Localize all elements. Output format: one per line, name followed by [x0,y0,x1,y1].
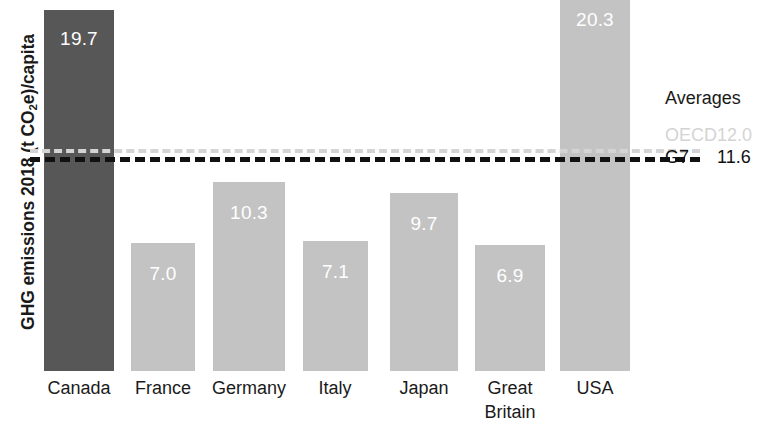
legend-title: Averages [655,88,769,109]
x-label-germany: Germany [195,376,303,400]
plot-area: 19.7 7.0 10.3 7.1 9.7 6.9 20.3 [0,0,769,371]
x-label-great-britain-line1: Great [487,378,532,398]
x-label-usa: USA [554,376,636,400]
x-label-japan: Japan [380,376,468,400]
x-label-italy: Italy [293,376,377,400]
bar-value-germany: 10.3 [213,202,285,224]
legend-label-oecd: OECD [665,125,717,146]
legend-label-g7: G7 [665,147,689,168]
x-axis-labels: Canada France Germany Italy Japan Great … [0,376,769,430]
bar-france[interactable]: 7.0 [131,243,195,371]
bar-usa[interactable]: 20.3 [560,0,630,371]
bar-italy[interactable]: 7.1 [303,241,368,371]
legend-value-oecd: 12.0 [717,125,752,146]
x-label-great-britain-line2: Britain [484,402,535,422]
legend-value-g7: 11.6 [717,147,751,168]
x-label-canada: Canada [29,376,129,400]
bar-value-france: 7.0 [131,263,195,285]
bar-value-usa: 20.3 [560,9,630,31]
ghg-emissions-bar-chart: GHG emissions 2018 (t CO2e)/capita 19.7 … [0,0,769,430]
legend: Averages OECD 12.0 G7 11.6 [655,88,769,169]
bar-germany[interactable]: 10.3 [213,182,285,371]
bar-value-italy: 7.1 [303,261,368,283]
bar-value-japan: 9.7 [390,213,458,235]
legend-row-g7: G7 11.6 [655,147,769,169]
bar-japan[interactable]: 9.7 [390,193,458,371]
reference-line-oecd [30,149,700,153]
x-label-great-britain: Great Britain [466,376,554,424]
bar-value-great-britain: 6.9 [475,265,545,287]
reference-line-g7 [30,157,700,162]
bar-great-britain[interactable]: 6.9 [475,245,545,371]
legend-row-oecd: OECD 12.0 [655,125,769,147]
bar-value-canada: 19.7 [44,28,114,50]
bar-canada[interactable]: 19.7 [44,10,114,371]
